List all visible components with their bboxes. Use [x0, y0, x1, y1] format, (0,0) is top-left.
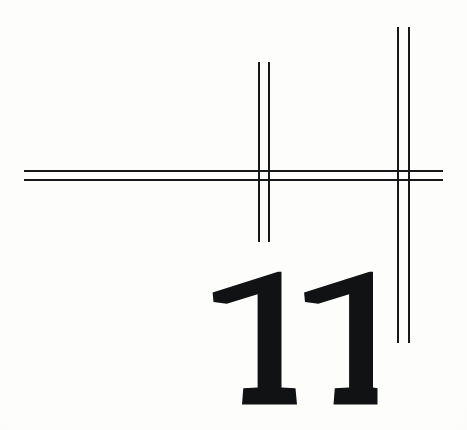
vertical-rule-right-line-2	[408, 27, 410, 343]
numeral-one-second	[304, 272, 377, 405]
chapter-number: 11	[196, 248, 386, 418]
chapter-opener-page: 11	[0, 0, 467, 430]
vertical-rule-right-line-1	[397, 27, 399, 343]
numeral-one-first	[213, 272, 297, 405]
vertical-rule-left-line-2	[268, 62, 270, 242]
vertical-rule-left-line-1	[258, 62, 260, 242]
chapter-number-glyphs	[196, 248, 386, 418]
horizontal-rule-line-1	[24, 170, 443, 172]
horizontal-rule-line-2	[24, 179, 443, 181]
